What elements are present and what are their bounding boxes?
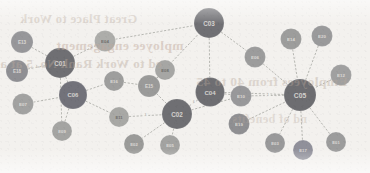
graph-node[interactable]: C06	[59, 81, 87, 109]
graph-edge	[86, 101, 110, 113]
graph-node[interactable]: C05	[284, 79, 316, 111]
graph-node[interactable]: E14	[281, 29, 302, 50]
node-label: E03	[271, 141, 279, 146]
graph-edge	[301, 111, 303, 140]
graph-node[interactable]: C03	[194, 8, 224, 38]
graph-node[interactable]: E11	[109, 107, 129, 127]
node-label: C05	[294, 92, 307, 99]
node-label: E06	[251, 55, 259, 60]
graph-edge	[209, 38, 210, 78]
graph-node[interactable]: E02	[124, 134, 144, 154]
graph-edge	[172, 129, 173, 136]
graph-node[interactable]: C02	[162, 99, 192, 129]
graph-edge	[32, 47, 47, 55]
graph-edge	[33, 97, 59, 102]
node-label: E20	[318, 34, 326, 39]
node-label: E11	[115, 115, 123, 120]
node-label: E13	[18, 40, 27, 45]
node-label: E12	[337, 73, 345, 78]
node-label: E08	[161, 68, 169, 73]
node-label: C03	[203, 20, 215, 27]
node-label: E04	[101, 39, 109, 44]
graph-edge	[73, 46, 95, 57]
node-label: E14	[287, 37, 295, 42]
graph-edge	[66, 77, 68, 82]
node-label: E10	[237, 94, 245, 99]
nodes-layer: E13E18E07C01C06E09E04E11E16E02E05E15C02C…	[6, 8, 352, 160]
graph-node[interactable]: E09	[52, 121, 72, 141]
node-label: C02	[171, 111, 183, 118]
graph-svg: 43652 E13E18E07C01C06E09E04E11E16E02E05E…	[0, 0, 370, 173]
node-label: C01	[54, 60, 66, 67]
graph-node[interactable]: E03	[265, 133, 285, 153]
node-label: E09	[58, 129, 66, 134]
node-label: E05	[166, 143, 174, 148]
node-label: E02	[130, 142, 138, 147]
graph-edge	[115, 26, 194, 40]
node-label: C06	[68, 92, 80, 98]
graph-node[interactable]: E05	[160, 135, 180, 155]
graph-node[interactable]: E10	[231, 86, 252, 107]
graph-edge	[314, 80, 331, 88]
graph-node[interactable]: E06	[245, 47, 266, 68]
graph-node[interactable]: E07	[13, 94, 34, 115]
graph-node[interactable]: E13	[11, 31, 33, 53]
graph-edge	[248, 102, 285, 120]
graph-edge	[157, 94, 167, 104]
graph-node[interactable]: E15	[138, 75, 160, 97]
graph-edge	[306, 46, 319, 80]
graph-node[interactable]: E12	[331, 65, 352, 86]
network-graph-canvas: Great Place to Work mployee engagement e…	[0, 0, 370, 173]
node-label: E17	[299, 148, 307, 153]
node-label: E18	[13, 69, 22, 74]
graph-edge	[263, 64, 288, 85]
graph-node[interactable]: E16	[104, 71, 124, 91]
node-label: C04	[204, 89, 216, 96]
node-label: E15	[145, 84, 154, 89]
graph-edge	[224, 94, 230, 95]
graph-edge	[293, 49, 298, 79]
graph-node[interactable]: C04	[196, 78, 225, 107]
node-label: E16	[110, 79, 118, 84]
graph-node[interactable]: E18	[6, 60, 28, 82]
node-label: E19	[235, 122, 243, 127]
graph-node[interactable]: E04	[95, 31, 116, 52]
graph-node[interactable]: C01	[45, 48, 75, 78]
graph-edge	[65, 108, 69, 121]
graph-node[interactable]: E01	[326, 132, 346, 152]
graph-node[interactable]: E19	[229, 114, 250, 135]
graph-node[interactable]: E20	[312, 26, 333, 47]
graph-node[interactable]: E17	[293, 140, 313, 160]
graph-edge	[310, 108, 330, 134]
graph-node[interactable]: E08	[155, 60, 175, 80]
graph-edge	[124, 82, 138, 84]
graph-edge	[142, 123, 164, 139]
graph-edge	[280, 109, 293, 134]
graph-edge	[221, 32, 246, 51]
node-label: E07	[19, 102, 27, 107]
graph-edge	[86, 84, 104, 90]
node-label: E01	[332, 140, 340, 145]
